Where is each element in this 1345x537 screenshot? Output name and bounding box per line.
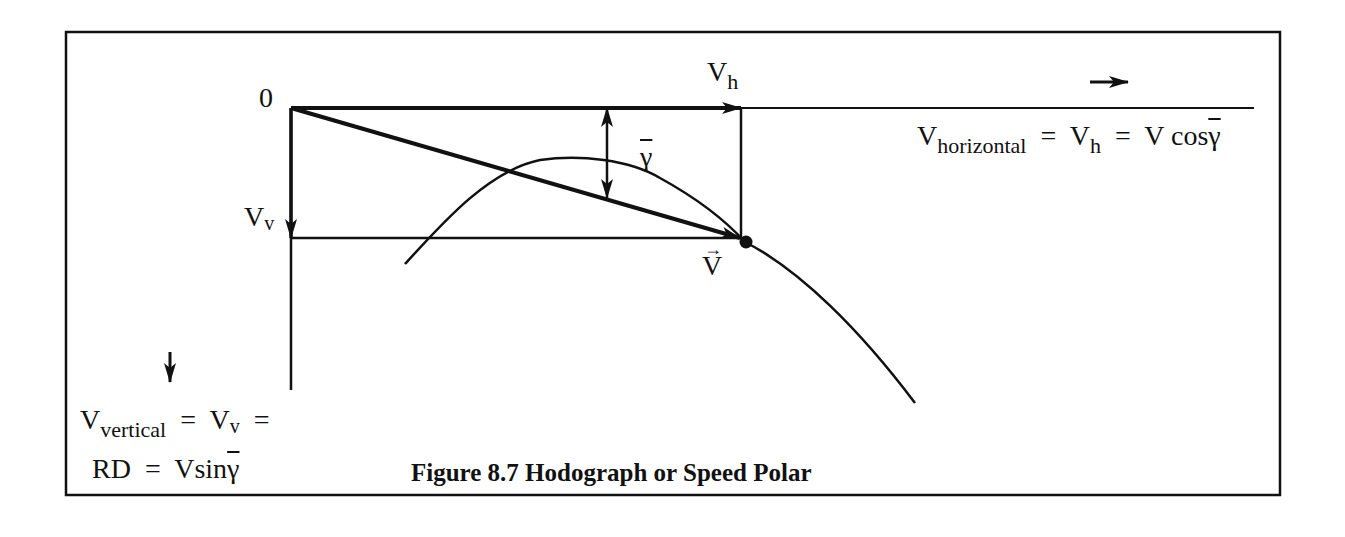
vector-arrow-icon: →: [704, 240, 722, 258]
rd-equation: RD = Vsinγ: [92, 455, 239, 483]
vv-label: Vv: [244, 203, 274, 231]
vertical-equation: Vvertical = Vv =: [80, 406, 270, 434]
vh-label-main: V: [707, 56, 727, 87]
vv-label-main: V: [244, 201, 264, 232]
operating-point-dot: [740, 236, 753, 249]
v-vector-arrow: [291, 108, 740, 238]
gamma-label: γ: [640, 143, 652, 171]
vh-label-sub: h: [727, 69, 738, 94]
origin-label: 0: [259, 84, 273, 112]
v-vector-label: → V: [702, 252, 722, 280]
vv-label-sub: v: [264, 212, 274, 234]
figure-caption: Figure 8.7 Hodograph or Speed Polar: [411, 460, 811, 485]
speed-polar-curve: [405, 158, 915, 403]
vh-label: Vh: [707, 58, 738, 86]
horizontal-equation: Vhorizontal = Vh = V cosγ: [917, 122, 1221, 150]
